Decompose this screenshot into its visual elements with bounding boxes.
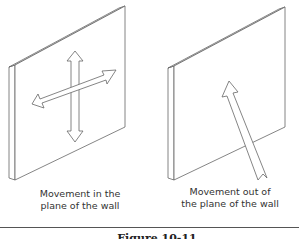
in-plane-label-line1: Movement in the [30,188,130,200]
out-of-plane-label: Movement out of the plane of the wall [180,186,280,210]
figure: Movement in the plane of the wall Moveme… [0,0,302,239]
out-of-plane-label-line2: the plane of the wall [180,198,280,210]
figure-caption: Figure 10-11 [100,232,214,239]
out-of-plane-label-line1: Movement out of [180,186,280,198]
divider [0,227,299,228]
in-plane-label: Movement in the plane of the wall [30,188,130,212]
in-plane-label-line2: plane of the wall [30,200,130,212]
